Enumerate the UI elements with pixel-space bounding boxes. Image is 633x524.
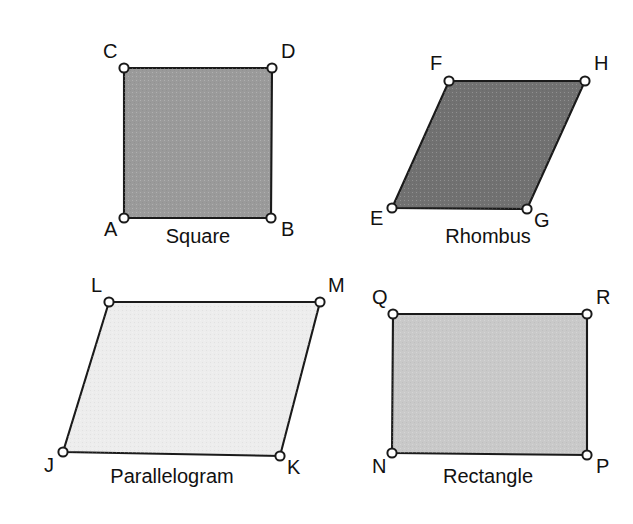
vertex-point-e <box>387 203 396 212</box>
shape-caption-rectangle: Rectangle <box>443 465 533 487</box>
vertex-point-d <box>267 63 276 72</box>
vertex-point-f <box>444 76 453 85</box>
vertex-label-a: A <box>104 218 118 240</box>
vertex-point-j <box>58 447 67 456</box>
vertex-point-k <box>275 451 284 460</box>
vertex-label-q: Q <box>372 286 388 308</box>
polygon-texture-rectangle <box>392 314 587 455</box>
shape-group-square: ABCDSquare <box>103 40 295 247</box>
shape-caption-rhombus: Rhombus <box>445 225 531 247</box>
vertex-point-h <box>580 76 589 85</box>
vertex-label-m: M <box>328 274 345 296</box>
vertex-label-h: H <box>594 52 608 74</box>
vertex-label-b: B <box>281 218 294 240</box>
vertex-label-j: J <box>44 454 54 476</box>
vertex-label-l: L <box>91 274 102 296</box>
vertex-point-b <box>266 213 275 222</box>
vertex-label-d: D <box>281 40 295 62</box>
vertex-point-c <box>119 63 128 72</box>
quadrilaterals-diagram: ABCDSquareEFGHRhombusJKLMParallelogramNP… <box>0 0 633 524</box>
vertex-label-n: N <box>372 455 386 477</box>
shape-caption-parallelogram: Parallelogram <box>110 465 233 487</box>
vertex-point-n <box>387 448 396 457</box>
vertex-label-r: R <box>596 286 610 308</box>
vertex-point-q <box>388 309 397 318</box>
polygon-texture-square <box>124 68 272 218</box>
vertex-point-m <box>315 297 324 306</box>
vertex-label-p: P <box>596 455 609 477</box>
vertex-point-l <box>104 297 113 306</box>
vertex-point-r <box>582 309 591 318</box>
vertex-label-e: E <box>370 207 383 229</box>
vertex-point-a <box>119 213 128 222</box>
shape-caption-square: Square <box>166 225 231 247</box>
vertex-point-p <box>582 450 591 459</box>
vertex-label-f: F <box>430 52 442 74</box>
vertex-label-c: C <box>103 40 117 62</box>
vertex-label-k: K <box>287 456 301 478</box>
vertex-point-g <box>522 204 531 213</box>
vertex-label-g: G <box>534 209 550 231</box>
